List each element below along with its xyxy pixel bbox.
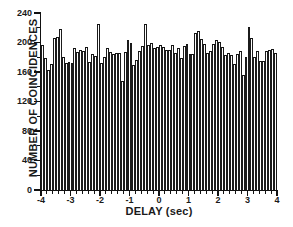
x-minor-tick [64, 190, 65, 194]
x-minor-tick [147, 190, 148, 194]
y-tick [34, 160, 41, 161]
y-tick-label: 0 [0, 186, 32, 195]
y-tick-label: 240 [0, 9, 32, 18]
x-tick-label: 1 [174, 196, 204, 205]
x-minor-tick [164, 190, 165, 194]
x-minor-tick [271, 190, 272, 194]
x-tick-label: 3 [233, 196, 263, 205]
x-minor-tick [265, 190, 266, 194]
x-minor-tick [135, 190, 136, 194]
x-minor-tick [76, 190, 77, 194]
y-tick-label: 160 [0, 68, 32, 77]
x-minor-tick [88, 190, 89, 194]
y-tick-label: 80 [0, 127, 32, 136]
histogram-bar [274, 53, 277, 190]
x-minor-tick [105, 190, 106, 194]
x-minor-tick [176, 190, 177, 194]
plot-area [41, 13, 277, 190]
x-tick-label: -4 [26, 196, 56, 205]
x-minor-tick [94, 190, 95, 194]
x-minor-tick [111, 190, 112, 194]
x-minor-tick [123, 190, 124, 194]
coincidence-delay-histogram-figure: NUMBER OF COINCIDENCES DELAY (sec) 04080… [0, 0, 293, 227]
x-tick-label: -3 [56, 196, 86, 205]
x-minor-tick [259, 190, 260, 194]
x-minor-tick [194, 190, 195, 194]
x-minor-tick [153, 190, 154, 194]
y-tick [34, 42, 41, 43]
x-tick-label: -2 [85, 196, 115, 205]
x-tick-label: -1 [115, 196, 145, 205]
x-tick-label: 2 [203, 196, 233, 205]
y-tick [34, 71, 41, 72]
x-minor-tick [223, 190, 224, 194]
y-tick [34, 101, 41, 102]
y-tick-label: 120 [0, 97, 32, 106]
x-minor-tick [253, 190, 254, 194]
y-tick [34, 130, 41, 131]
x-tick-label: 4 [262, 196, 292, 205]
x-minor-tick [229, 190, 230, 194]
x-minor-tick [58, 190, 59, 194]
x-minor-tick [182, 190, 183, 194]
x-minor-tick [141, 190, 142, 194]
x-minor-tick [170, 190, 171, 194]
x-minor-tick [46, 190, 47, 194]
x-minor-tick [212, 190, 213, 194]
x-minor-tick [200, 190, 201, 194]
x-minor-tick [82, 190, 83, 194]
y-tick-label: 200 [0, 38, 32, 47]
y-tick [34, 12, 41, 13]
y-tick-label: 40 [0, 156, 32, 165]
x-axis-title: DELAY (sec) [41, 205, 277, 217]
x-minor-tick [117, 190, 118, 194]
x-minor-tick [52, 190, 53, 194]
x-minor-tick [206, 190, 207, 194]
x-minor-tick [235, 190, 236, 194]
x-minor-tick [241, 190, 242, 194]
x-tick-label: 0 [144, 196, 174, 205]
